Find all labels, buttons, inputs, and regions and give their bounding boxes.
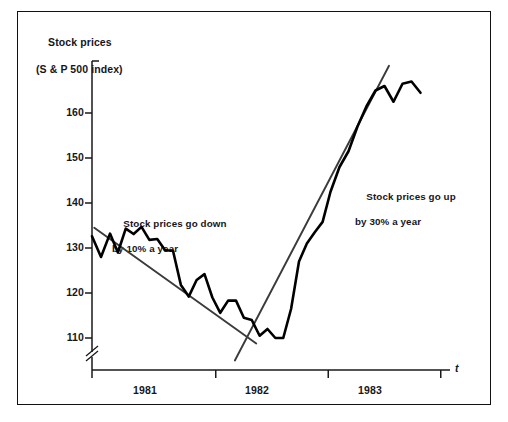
down-trendline: [94, 228, 256, 344]
y-tick-marks: [85, 113, 92, 338]
x-tick-marks: [92, 370, 441, 378]
plot-area: [0, 0, 508, 422]
trendlines-group: [94, 66, 389, 361]
chart-figure: Stock prices (S & P 500 index) 160 150 1…: [0, 0, 508, 422]
series-group: [92, 82, 421, 339]
series-line-sp500: [92, 82, 421, 339]
